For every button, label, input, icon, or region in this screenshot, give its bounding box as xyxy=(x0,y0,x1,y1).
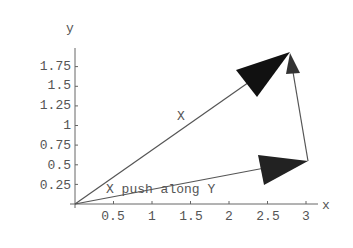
x-tick-label: 2.5 xyxy=(256,209,279,224)
x-tick-label: 2 xyxy=(225,209,233,224)
y-tick-label: 1 xyxy=(63,118,71,133)
x-tick-label: 1.5 xyxy=(179,209,202,224)
vector-connector xyxy=(286,53,308,161)
arrowhead-icon xyxy=(258,155,308,185)
vector-x-push-along-y-label: X push along Y xyxy=(106,182,215,197)
vector-diagram: y x 0.5 1 1.5 2 2.5 3 0.25 0.5 0.75 1 1.… xyxy=(0,0,353,248)
x-tick-label: 0.5 xyxy=(101,209,124,224)
y-axis-label: y xyxy=(66,21,74,36)
x-tick-label: 3 xyxy=(302,209,310,224)
y-tick-label: 0.75 xyxy=(40,138,71,153)
y-tick-label: 0.25 xyxy=(40,178,71,193)
x-tick-label: 1 xyxy=(148,209,156,224)
y-tick-label: 0.5 xyxy=(48,158,71,173)
y-tick-label: 1.5 xyxy=(48,78,71,93)
arrowhead-icon xyxy=(286,53,300,74)
y-tick-label: 1.75 xyxy=(40,59,71,74)
x-axis-label: x xyxy=(322,198,330,213)
y-tick-label: 1.25 xyxy=(40,98,71,113)
arrowhead-icon xyxy=(236,52,290,97)
vector-x-label: X xyxy=(177,109,185,124)
